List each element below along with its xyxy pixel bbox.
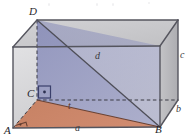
edge-label-c: c [180, 50, 184, 60]
geometry-figure: D C A B a b c d t [0, 0, 191, 138]
edge-label-b: b [176, 104, 181, 114]
edge-label-a: a [75, 123, 80, 133]
edge-label-d: d [95, 51, 100, 61]
cuboid-diagram-svg [0, 0, 191, 138]
vertex-label-C: C [27, 88, 34, 99]
vertex-label-B: B [155, 124, 162, 135]
vertex-label-A: A [4, 125, 11, 136]
scan-artifacts [0, 0, 191, 12]
edge-label-t: t [68, 101, 71, 111]
